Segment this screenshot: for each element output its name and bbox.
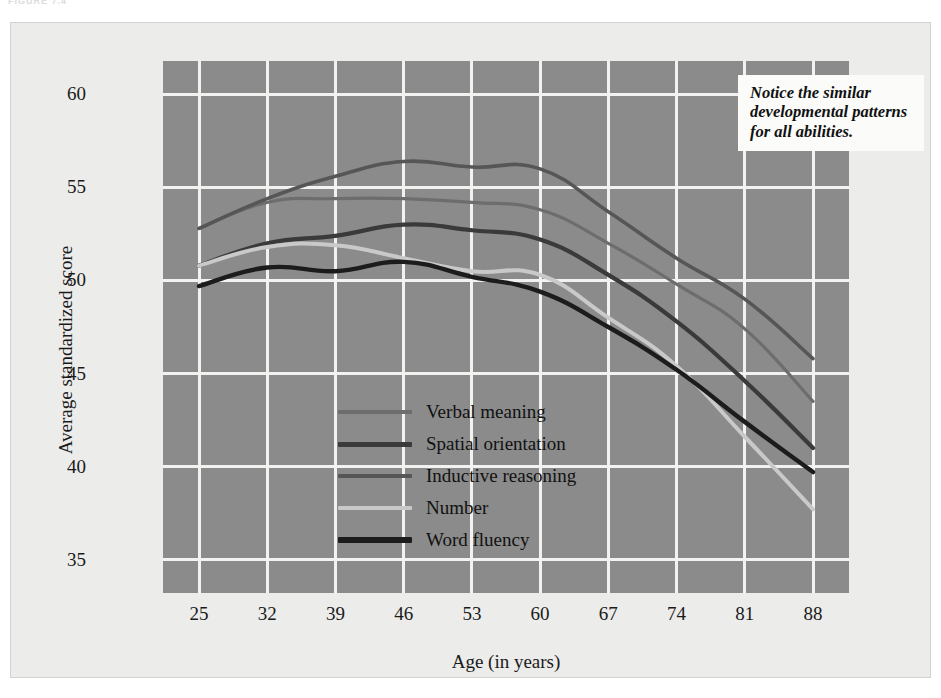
annotation-callout: Notice the similar developmental pattern… [738, 75, 924, 151]
x-axis-tick-label: 88 [783, 603, 843, 625]
figure-root: FIGURE 7.4 Verbal meaningSpatial orienta… [0, 0, 941, 698]
y-axis-title: Average standardized score [55, 190, 77, 510]
legend-swatch [338, 537, 412, 542]
legend-item: Number [338, 497, 576, 519]
legend-swatch [338, 506, 412, 511]
y-axis-tick-label: 60 [26, 83, 86, 105]
x-axis-tick-label: 53 [442, 603, 502, 625]
series-line [199, 161, 813, 359]
x-axis-tick-label: 25 [169, 603, 229, 625]
legend-label: Inductive reasoning [426, 465, 576, 487]
legend-label: Spatial orientation [426, 433, 566, 455]
legend-item: Inductive reasoning [338, 465, 576, 487]
legend-item: Spatial orientation [338, 433, 576, 455]
x-axis-tick-label: 60 [510, 603, 570, 625]
x-axis-title: Age (in years) [163, 651, 849, 673]
figure-running-head: FIGURE 7.4 [8, 0, 208, 8]
x-axis-tick-label: 46 [374, 603, 434, 625]
legend-swatch [338, 410, 412, 414]
x-axis-tick-label: 67 [578, 603, 638, 625]
x-axis-tick-label: 74 [647, 603, 707, 625]
legend-label: Verbal meaning [426, 401, 546, 423]
legend-label: Word fluency [426, 529, 529, 551]
legend-swatch [338, 474, 412, 478]
series-line [199, 198, 813, 401]
legend-item: Word fluency [338, 529, 576, 551]
y-axis-tick-label: 35 [26, 549, 86, 571]
x-axis-tick-label: 39 [305, 603, 365, 625]
figure-panel: Verbal meaningSpatial orientationInducti… [10, 22, 931, 678]
legend-label: Number [426, 497, 488, 519]
legend-swatch [338, 442, 412, 447]
chart-legend: Verbal meaningSpatial orientationInducti… [338, 401, 576, 551]
x-axis-tick-label: 81 [715, 603, 775, 625]
legend-item: Verbal meaning [338, 401, 576, 423]
x-axis-tick-label: 32 [237, 603, 297, 625]
